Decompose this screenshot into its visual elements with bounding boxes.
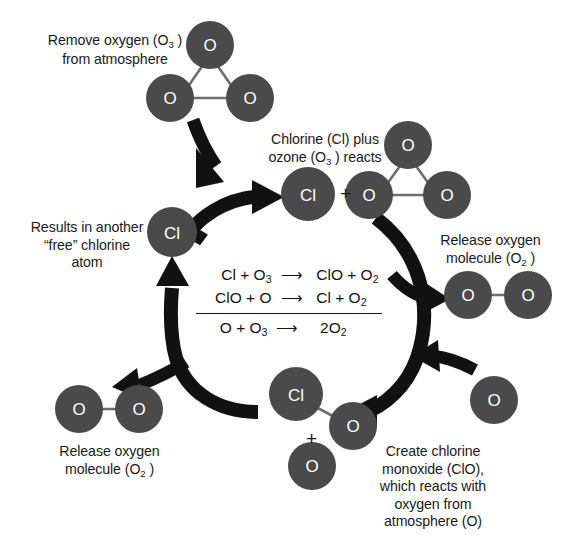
atom-label-free-oxygen-bottom: O [305,457,318,476]
label-chlorine-plus-ozone: Chlorine (Cl) plus ozone (O3 ) reacts [250,131,400,167]
atom-label-o2-right-o2: O [521,286,534,305]
equation-row-1: Cl + O3 ⟶ ClO + O2 [196,264,386,287]
arrow-left-main-head [156,256,189,286]
equation-row-2-arrow: ⟶ [272,287,311,309]
label-release-oxygen-right-line1: Release oxygen [418,232,563,250]
label-chlorine-plus-ozone-line1: Chlorine (Cl) plus [250,131,400,149]
label-remove-oxygen: Remove oxygen (O3)Remove oxygen (O3 ) fr… [30,32,200,68]
label-create-chlorine-monoxide-line5: atmosphere (O) [353,513,513,531]
atom-label-clo-oxygen: O [346,417,359,436]
atom-label-clo-chlorine: Cl [288,386,304,405]
atom-label-chlorine-free: Cl [164,224,180,243]
label-create-chlorine-monoxide: Create chlorine monoxide (ClO), which re… [353,443,513,531]
equation-row-3-arrow: ⟶ [267,317,304,339]
equation-row-1-left: Cl + O3 [196,264,272,287]
equation-row-2-right: Cl + O2 [310,287,386,310]
atom-label-ozone-right-o1: O [401,136,414,155]
equation-row-2-left: ClO + O [196,287,272,309]
atom-label-ozone-top-o1: O [203,36,216,55]
ozone-depletion-diagram: O O O Cl O O O Cl O O O [0,0,573,555]
plus-sign-below-clo: + [306,428,317,450]
atom-label-o2-left-o2: O [132,400,145,419]
equation-row-3: O + O3 ⟶ 2O2 [196,317,386,340]
label-chlorine-plus-ozone-line2: ozone (O3 ) reacts [250,149,400,168]
atom-label-o2-right-o1: O [461,286,474,305]
equation-row-3-left: O + O3 [196,317,267,340]
label-results-free-chlorine-line2: “free” chlorine [22,237,152,255]
label-create-chlorine-monoxide-line4: oxygen from [353,496,513,514]
label-release-oxygen-right: Release oxygen molecule (O2 ) [418,232,563,268]
arrow-into-reaction-head [252,180,284,214]
equation-row-2: ClO + O ⟶ Cl + O2 [196,287,386,310]
atom-label-ozone-top-o2: O [163,89,176,108]
label-create-chlorine-monoxide-line2: monoxide (ClO), [353,461,513,479]
label-release-oxygen-left-line1: Release oxygen [37,443,182,461]
equation-row-3-right: 2O2 [304,317,386,340]
reaction-equations: Cl + O3 ⟶ ClO + O2 ClO + O ⟶ Cl + O2 O +… [196,264,386,340]
atom-label-ozone-right-o3: O [440,186,453,205]
equation-row-1-arrow: ⟶ [272,264,311,286]
label-remove-oxygen-line1: Remove oxygen (O3)Remove oxygen (O3 ) [30,32,200,51]
label-results-free-chlorine-line3: atom [22,254,152,272]
plus-sign-cl-ozone: + [340,183,351,205]
atom-label-ozone-right-o2: O [362,186,375,205]
label-results-free-chlorine: Results in another “free” chlorine atom [22,219,152,272]
label-create-chlorine-monoxide-line3: which reacts with [353,478,513,496]
label-create-chlorine-monoxide-line1: Create chlorine [353,443,513,461]
label-release-oxygen-left-line2: molecule (O2 ) [37,461,182,480]
atom-label-ozone-top-o3: O [243,89,256,108]
label-release-oxygen-left: Release oxygen molecule (O2 ) [37,443,182,479]
equation-row-1-right: ClO + O2 [310,264,386,287]
label-release-oxygen-right-line2: molecule (O2 ) [418,250,563,269]
label-results-free-chlorine-line1: Results in another [22,219,152,237]
atom-label-o2-left-o1: O [72,400,85,419]
atom-label-chlorine-reacting: Cl [300,186,316,205]
equation-divider [196,313,382,314]
atom-label-free-oxygen-right: O [487,391,500,410]
label-remove-oxygen-line2: from atmosphere [30,51,200,69]
